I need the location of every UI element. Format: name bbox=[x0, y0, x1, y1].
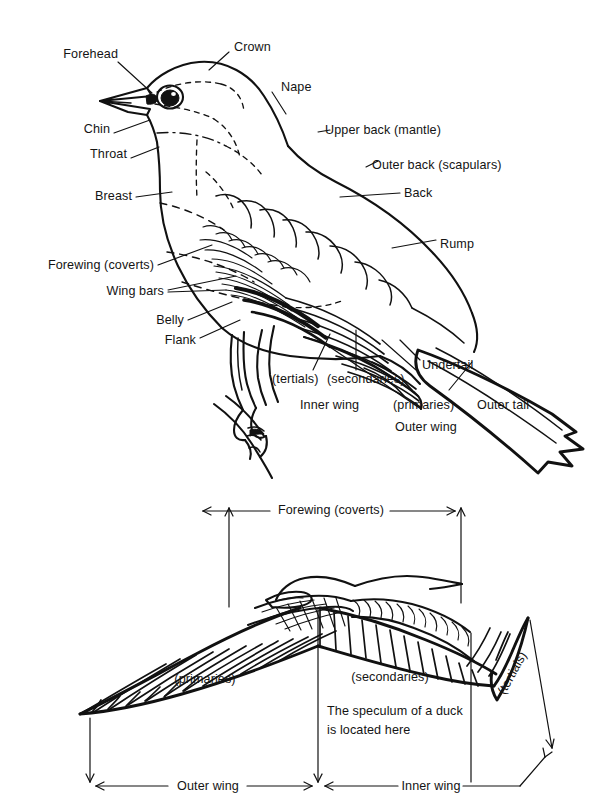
label-primaries: (primaries) bbox=[393, 398, 454, 413]
rump-line bbox=[412, 308, 464, 343]
scapular-feather bbox=[260, 209, 296, 247]
speculum-note-line1: The speculum of a duck bbox=[327, 704, 463, 719]
bird-topography-figure: Forehead Crown Nape Chin Throat Upper ba… bbox=[0, 0, 603, 807]
upper-mandible-icon bbox=[100, 88, 152, 101]
label-secondaries: (secondaries) bbox=[327, 372, 405, 387]
label-wing-bars: Wing bars bbox=[0, 284, 164, 299]
throat-center-dash bbox=[196, 140, 197, 198]
eye-highlight bbox=[171, 92, 176, 96]
label-tertials: (tertials) bbox=[272, 372, 318, 387]
scapular-feather bbox=[216, 195, 251, 228]
label-rump: Rump bbox=[440, 237, 474, 252]
scapular-feather bbox=[238, 201, 274, 237]
tertial-feather bbox=[478, 632, 501, 672]
label-crown: Crown bbox=[234, 40, 271, 55]
lower-diagram-annotations bbox=[86, 507, 554, 790]
covert-row-line bbox=[212, 259, 272, 284]
label-nape: Nape bbox=[281, 80, 312, 95]
right-leg bbox=[257, 330, 266, 405]
label-wing-forewing-coverts: Forewing (coverts) bbox=[270, 503, 392, 518]
spread-wing-drawing bbox=[80, 507, 554, 790]
right-leg-back bbox=[269, 326, 278, 402]
scapular-feather bbox=[283, 220, 319, 259]
scapular-feather bbox=[379, 280, 412, 308]
scapular-feather bbox=[306, 232, 342, 273]
crown-rear-dash bbox=[221, 84, 244, 112]
label-belly: Belly bbox=[0, 313, 184, 328]
label-upper-back-mantle: Upper back (mantle) bbox=[325, 123, 441, 138]
speculum-note-line2: is located here bbox=[327, 723, 410, 738]
perched-bird-drawing bbox=[100, 52, 583, 478]
label-undertail: Undertail bbox=[422, 358, 473, 373]
median-covert-line bbox=[352, 617, 474, 661]
wing-shoulder-edge bbox=[430, 584, 462, 589]
label-forehead: Forehead bbox=[0, 47, 118, 62]
label-flank: Flank bbox=[0, 333, 196, 348]
label-forewing-coverts: Forewing (coverts) bbox=[0, 258, 154, 273]
secondaries-group bbox=[286, 298, 393, 378]
toe bbox=[245, 440, 251, 459]
covert-row-line bbox=[200, 240, 252, 258]
left-leg bbox=[231, 335, 243, 410]
label-outer-back-scapulars: Outer back (scapulars) bbox=[372, 158, 502, 173]
label-outer-wing: Outer wing bbox=[395, 420, 457, 435]
tarsus-line bbox=[238, 338, 242, 390]
greater-covert-scallops bbox=[353, 600, 469, 646]
rump-outline bbox=[472, 313, 477, 352]
label-wing-outer-wing: Outer wing bbox=[168, 779, 248, 794]
side-breast-dash bbox=[206, 172, 234, 210]
wing-shoulder-top bbox=[355, 576, 462, 586]
covert-scallop bbox=[281, 268, 310, 282]
toe bbox=[234, 410, 245, 440]
label-inner-wing: Inner wing bbox=[300, 398, 359, 413]
tertial-feather bbox=[496, 632, 508, 660]
primaries-leading-edge bbox=[80, 608, 300, 714]
scapular-feather bbox=[355, 262, 392, 305]
label-wing-primaries: (primaries) bbox=[150, 672, 260, 687]
covert-row-line bbox=[205, 250, 262, 272]
label-throat: Throat bbox=[0, 147, 127, 162]
throat-boundary-dash bbox=[157, 133, 226, 146]
label-breast: Breast bbox=[0, 189, 132, 204]
label-wing-inner-wing: Inner wing bbox=[398, 779, 464, 794]
lore-patch bbox=[146, 94, 157, 104]
label-wing-secondaries: (secondaries) bbox=[330, 670, 450, 685]
label-outer-tail: Outer tall bbox=[477, 398, 529, 413]
label-chin: Chin bbox=[0, 122, 110, 137]
eye-pupil-icon bbox=[161, 90, 179, 106]
label-back: Back bbox=[404, 186, 432, 201]
throat-rear-dash bbox=[226, 146, 262, 175]
scapular-feather bbox=[330, 246, 367, 289]
